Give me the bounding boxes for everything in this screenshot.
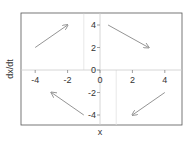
y-tick-label: -4: [88, 110, 96, 120]
vector-field-chart: -4-2024 -4-2240 x dx/dt: [0, 0, 191, 143]
y-tick-label: 4: [91, 20, 96, 30]
x-tick-label: 4: [162, 75, 167, 85]
plot-frame: [21, 13, 182, 125]
x-axis-title: x: [98, 127, 103, 137]
y-tick-label: 2: [91, 43, 96, 53]
x-tick-label: 2: [130, 75, 135, 85]
x-tick-label: -2: [64, 75, 72, 85]
y-tick-label: 0: [91, 65, 96, 75]
y-axis-title: dx/dt: [5, 59, 15, 79]
y-tick-label: -2: [88, 88, 96, 98]
x-tick-label: 0: [97, 75, 102, 85]
x-tick-label: -4: [31, 75, 39, 85]
